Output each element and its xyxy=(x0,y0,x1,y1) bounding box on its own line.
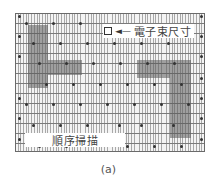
exposed-pattern-left-vertical xyxy=(28,25,48,88)
beam-size-text: 電子束尺寸 xyxy=(134,23,192,39)
sequential-scan-label: 順序掃描 xyxy=(25,133,125,147)
raster-scan-figure: ◄— 電子束尺寸 順序掃描 (a) xyxy=(0,0,217,192)
arrow-left-icon: ◄— xyxy=(115,26,131,36)
beam-spot-square-icon xyxy=(104,27,112,35)
beam-size-label: ◄— 電子束尺寸 xyxy=(103,24,194,38)
figure-caption: (a) xyxy=(0,163,217,176)
sequential-scan-text: 順序掃描 xyxy=(52,132,98,148)
exposed-pattern-right-vertical xyxy=(170,78,191,138)
